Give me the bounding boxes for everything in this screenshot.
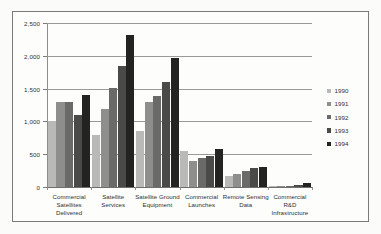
bar — [206, 156, 214, 187]
bar — [136, 131, 144, 187]
bar-chart-figure: 05001,0001,5002,0002,500 CommercialSatel… — [0, 0, 381, 234]
bar — [250, 168, 258, 187]
legend-item-1992[interactable]: 1992 — [327, 111, 365, 124]
legend-swatch-icon — [327, 102, 331, 106]
y-tick-label: 2,000 — [24, 52, 40, 59]
bar — [171, 58, 179, 187]
x-tick-mark — [91, 187, 92, 190]
legend-item-1991[interactable]: 1991 — [327, 97, 365, 110]
x-tick-label-line: Commercial — [264, 193, 316, 201]
x-tick-mark — [135, 187, 136, 190]
legend-item-1990[interactable]: 1990 — [327, 84, 365, 97]
bar — [162, 82, 170, 187]
bar — [242, 171, 250, 187]
bar — [303, 183, 311, 187]
bar-group — [224, 23, 268, 187]
legend-swatch-icon — [327, 89, 331, 93]
legend-label: 1990 — [334, 87, 348, 94]
bar — [277, 186, 285, 187]
bar-group — [180, 23, 224, 187]
bar-group — [268, 23, 312, 187]
bar — [286, 186, 294, 187]
x-tick-label-line: Delivered — [43, 209, 95, 217]
bar — [101, 109, 109, 187]
legend-label: 1993 — [334, 127, 348, 134]
x-tick-label-line: R&D — [264, 201, 316, 209]
bar — [269, 186, 277, 187]
bar-group — [91, 23, 135, 187]
x-tick-mark — [47, 187, 48, 190]
bar — [180, 151, 188, 187]
legend-item-1993[interactable]: 1993 — [327, 124, 365, 137]
bar — [56, 102, 64, 187]
legend-label: 1991 — [334, 100, 348, 107]
x-tick-label-line: Infrastructure — [264, 209, 316, 217]
legend-swatch-icon — [327, 142, 331, 146]
bar — [259, 167, 267, 187]
y-tick-label: 500 — [29, 151, 40, 158]
bar — [233, 174, 241, 187]
bar — [153, 96, 161, 188]
y-tick-label: 2,500 — [24, 20, 40, 27]
x-tick-mark — [268, 187, 269, 190]
legend-label: 1992 — [334, 114, 348, 121]
x-tick-mark — [180, 187, 181, 190]
x-tick-label: CommercialR&DInfrastructure — [264, 193, 316, 218]
y-tick-label: 0 — [36, 184, 40, 191]
legend-swatch-icon — [327, 115, 331, 119]
bar — [126, 35, 134, 187]
y-tick-label: 1,000 — [24, 118, 40, 125]
x-tick-mark — [312, 187, 313, 190]
bar — [294, 185, 302, 187]
bar — [198, 158, 206, 187]
legend-item-1994[interactable]: 1994 — [327, 137, 365, 150]
bar — [225, 176, 233, 187]
bar — [82, 95, 90, 187]
x-tick-mark — [224, 187, 225, 190]
bar — [189, 161, 197, 187]
bar — [215, 149, 223, 187]
plot-area: 05001,0001,5002,0002,500 CommercialSatel… — [47, 23, 312, 187]
bar — [65, 102, 73, 187]
bar-group — [47, 23, 91, 187]
bar — [92, 135, 100, 187]
legend-label: 1994 — [334, 140, 348, 147]
bar-group — [135, 23, 179, 187]
y-tick-label: 1,500 — [24, 85, 40, 92]
bar — [74, 115, 82, 187]
legend-swatch-icon — [327, 128, 331, 132]
bar — [109, 88, 117, 187]
bar — [145, 102, 153, 187]
bar — [118, 66, 126, 187]
bar — [48, 121, 56, 187]
legend: 19901991199219931994 — [327, 84, 365, 150]
